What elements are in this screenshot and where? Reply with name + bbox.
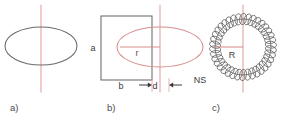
figure-container: a) a b d r b) R NS c) xyxy=(0,0,284,121)
panel-b-group: a b d r b) xyxy=(90,5,203,113)
panel-b-caption: b) xyxy=(107,102,115,113)
panel-b-width-label: b xyxy=(118,81,123,91)
panel-c-group: R NS c) xyxy=(194,5,277,113)
panel-b-radius-label: r xyxy=(136,48,139,58)
panel-c-caption: c) xyxy=(212,102,220,113)
panel-b-height-label: a xyxy=(90,43,95,53)
physics-diagram-svg: a) a b d r b) R NS c) xyxy=(0,0,284,121)
panel-b-gap-label: d xyxy=(152,81,157,91)
panel-a-caption: a) xyxy=(10,102,18,113)
panel-b-rectangle xyxy=(101,16,152,80)
panel-a-group: a) xyxy=(5,5,77,113)
panel-c-turns-label: NS xyxy=(194,75,207,85)
panel-c-radius-label: R xyxy=(229,50,236,60)
